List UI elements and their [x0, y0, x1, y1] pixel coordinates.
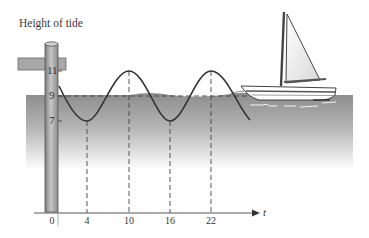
water [26, 91, 353, 170]
x-tick-10: 10 [124, 215, 134, 226]
tide-diagram: Height of tide 11 9 7 0 4 10 16 22 t [0, 0, 369, 238]
x-tick-0: 0 [50, 215, 55, 226]
diagram-title: Height of tide [19, 17, 83, 29]
x-axis [34, 210, 260, 227]
y-tick-11: 11 [47, 64, 58, 76]
dock-crossbar [18, 58, 66, 70]
x-tick-16: 16 [165, 215, 175, 226]
x-axis-variable: t [263, 206, 266, 218]
x-tick-22: 22 [206, 215, 216, 226]
y-tick-7: 7 [49, 114, 55, 126]
tide-illustration [0, 0, 369, 238]
sailboat [241, 12, 336, 107]
x-tick-4: 4 [85, 215, 90, 226]
y-tick-9: 9 [49, 89, 55, 101]
